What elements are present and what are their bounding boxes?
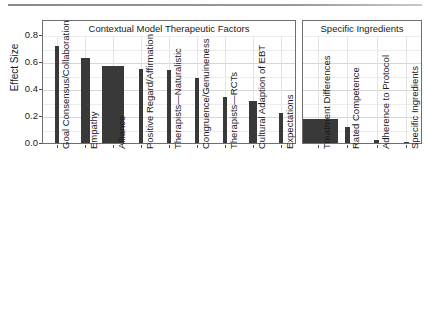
x-tick-mark [113,145,114,148]
x-tick-label: Expectations [285,95,295,149]
y-axis-ticks: 0.00.20.40.60.8 [14,0,38,316]
bar [404,142,409,143]
x-tick-mark [318,145,319,148]
x-tick-mark [85,145,86,148]
panel-title-contextual-model: Contextual Model Therapeutic Factors [43,21,295,37]
x-tick-label: Empathy [89,112,99,150]
x-tick-mark [225,145,226,148]
bar [279,113,283,143]
bar [195,78,199,143]
x-tick-label: Rated Competence [351,67,361,149]
gridline-minor [303,50,421,51]
x-tick-mark [253,145,254,148]
x-tick-label: Goal Consensus/Collaboration [61,20,71,149]
y-tick-label: 0.8 [16,30,38,40]
y-tick-label: 0.0 [16,138,38,148]
y-tick-label: 0.2 [16,111,38,121]
x-tick-mark [141,145,142,148]
x-tick-label: Treatment Differences [322,56,332,149]
x-tick-mark [169,145,170,148]
x-tick-label: Alliance [117,116,127,149]
x-tick-label: Specific Ingredients [410,66,420,149]
x-tick-mark [281,145,282,148]
x-tick-label: Adherence to Protocol [381,55,391,149]
x-tick-mark [347,145,348,148]
bar [223,97,227,143]
panel-specific-ingredients: Specific Ingredients [302,20,422,144]
x-tick-label: Positive Regard/Affirmation [145,34,155,149]
gridline-minor [303,36,421,37]
bar [139,69,143,143]
bar [374,140,379,143]
gridline-vertical [377,36,378,143]
bar [167,70,171,143]
y-tick-label: 0.4 [16,84,38,94]
y-tick-label: 0.6 [16,57,38,67]
effect-size-bar-chart: Effect Size 0.00.20.40.60.8 Contextual M… [0,0,429,316]
bar [345,127,350,143]
x-tick-label: Cultural Adaption of EBT [257,45,267,149]
x-tick-label: Therapists—Naturalistic [173,48,183,149]
bar [55,46,59,143]
x-tick-mark [197,145,198,148]
x-tick-label: Congruence/Genuineness [201,39,211,149]
panel-title-specific-ingredients: Specific Ingredients [303,21,421,37]
x-tick-mark [406,145,407,148]
x-tick-mark [57,145,58,148]
x-tick-label: Therapists—RCTs [229,72,239,149]
x-tick-mark [377,145,378,148]
gridline-vertical [406,36,407,143]
